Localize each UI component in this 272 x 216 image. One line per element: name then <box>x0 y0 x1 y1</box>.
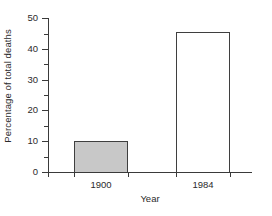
x-axis-line <box>48 172 252 173</box>
x-tick-3 <box>176 172 177 177</box>
y-axis-line <box>48 18 49 173</box>
y-tick-minor-35 <box>44 64 48 65</box>
x-tick-2 <box>128 172 129 177</box>
y-tick-major-20 <box>42 110 48 111</box>
y-tick-major-50 <box>42 18 48 19</box>
y-tick-minor-45 <box>44 34 48 35</box>
x-tick-0 <box>48 172 49 177</box>
y-tick-minor-5 <box>44 157 48 158</box>
y-tick-minor-15 <box>44 126 48 127</box>
x-tick-label-1900: 1900 <box>71 179 131 190</box>
y-tick-label-40: 40 <box>12 44 38 54</box>
bar-1900 <box>74 141 128 173</box>
y-tick-label-0: 0 <box>12 167 38 177</box>
y-axis-title: Percentage of total deaths <box>0 0 14 172</box>
y-tick-label-50: 50 <box>12 13 38 23</box>
y-tick-major-30 <box>42 80 48 81</box>
y-tick-label-20: 20 <box>12 105 38 115</box>
bar-1984 <box>176 32 230 173</box>
bar-chart: Percentage of total deaths 0 10 20 30 40… <box>0 0 272 216</box>
y-tick-major-10 <box>42 141 48 142</box>
y-tick-label-10: 10 <box>12 136 38 146</box>
y-tick-label-30: 30 <box>12 75 38 85</box>
x-tick-label-1984: 1984 <box>173 179 233 190</box>
y-tick-minor-25 <box>44 95 48 96</box>
x-axis-title: Year <box>48 193 252 204</box>
x-tick-1 <box>74 172 75 177</box>
y-tick-major-40 <box>42 49 48 50</box>
x-tick-4 <box>230 172 231 177</box>
